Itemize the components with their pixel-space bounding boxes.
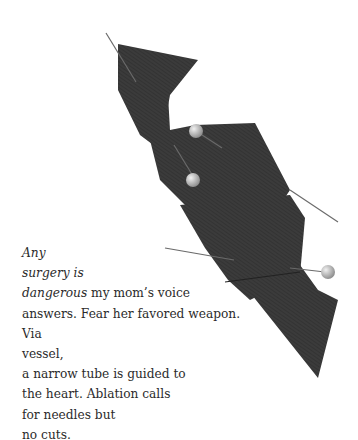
poem-line: answers. Fear her favored weapon. [22,304,240,324]
poem-line: dangerous my mom’s voice [22,283,240,303]
poem-line: Via [22,324,240,344]
poem-text: Any surgery is dangerous my mom’s voice … [22,243,240,440]
poem-line: Any [22,243,240,263]
poem-line: for needles but [22,405,240,425]
poem-line: surgery is [22,263,240,283]
poem-line: no cuts. [22,425,240,440]
poem-line: a narrow tube is guided to [22,364,240,384]
poem-line: the heart. Ablation calls [22,384,240,404]
poem-line: vessel, [22,344,240,364]
